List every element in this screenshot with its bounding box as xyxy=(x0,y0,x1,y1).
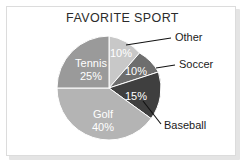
leader-line-soccer xyxy=(156,65,175,68)
pie-chart-figure: FAVORITE SPORT 10% 10% 15% Golf 40% Tenn… xyxy=(0,0,245,165)
slice-label-golf-percent: 40% xyxy=(92,121,114,133)
pie-chart-svg: 10% 10% 15% Golf 40% Tennis 25% Other So… xyxy=(0,0,245,165)
slice-label-soccer-percent: 10% xyxy=(125,65,147,77)
callout-label-soccer: Soccer xyxy=(179,58,214,70)
slice-label-golf-name: Golf xyxy=(93,108,114,120)
slice-label-baseball-percent: 15% xyxy=(125,90,147,102)
slice-label-tennis-percent: 25% xyxy=(80,70,102,82)
callout-label-other: Other xyxy=(175,31,203,43)
callout-label-baseball: Baseball xyxy=(164,119,206,131)
slice-label-tennis-name: Tennis xyxy=(75,57,107,69)
slice-label-other-percent: 10% xyxy=(110,47,132,59)
leader-line-other xyxy=(126,38,171,45)
